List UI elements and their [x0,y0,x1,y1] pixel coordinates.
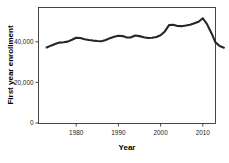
enrollment-line [47,18,224,47]
y-axis-title: First year enrollment [6,25,15,104]
chart-figure: 40,000 20,000 0 1980 1990 2000 2010 Year… [0,0,229,163]
x-tick-label-1990: 1990 [111,129,126,136]
y-tick-label-0: 0 [30,119,34,126]
y-tick-label-20000: 20,000 [14,79,34,86]
x-tick-label-2000: 2000 [153,129,168,136]
line-chart-svg: 40,000 20,000 0 1980 1990 2000 2010 Year… [0,0,229,163]
x-axis-title: Year [119,143,136,152]
x-tick-label-1980: 1980 [69,129,84,136]
y-tick-label-40000: 40,000 [14,38,34,45]
x-tick-label-2010: 2010 [196,129,211,136]
